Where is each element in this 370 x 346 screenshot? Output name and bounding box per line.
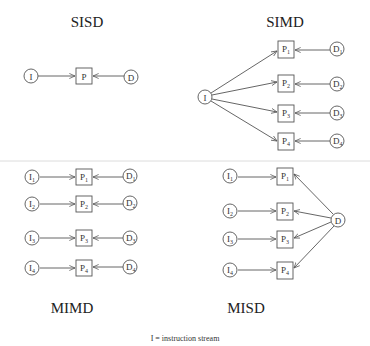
mimd-data-3: D3: [123, 231, 137, 245]
mimd-panel: I1 I2 I3 I4 P1 P2 P3 P4 D1 D2 D3 D4 MIMD: [25, 169, 137, 316]
simd-processor-3: P3: [278, 105, 294, 122]
simd-edge-i-p3: [212, 99, 277, 112]
simd-data-4: D4: [330, 134, 344, 148]
misd-instruction-2: I2: [223, 204, 237, 218]
legend-text: I = instruction stream: [151, 334, 220, 343]
misd-instruction-3: I3: [223, 232, 237, 246]
mimd-instruction-2: I2: [25, 197, 39, 211]
svg-text:D: D: [128, 73, 135, 83]
flynn-taxonomy-diagram: SISD I P D SIMD I P1: [0, 0, 370, 346]
simd-edge-i-p1: [211, 51, 277, 93]
simd-edge-i-p4: [211, 101, 277, 141]
simd-processor-2: P2: [278, 75, 294, 92]
mimd-processor-2: P2: [76, 196, 92, 212]
misd-processor-4: P4: [277, 262, 293, 279]
misd-data-node: D: [331, 213, 345, 227]
simd-data-3: D3: [330, 106, 344, 120]
sisd-processor-node: P: [76, 68, 92, 84]
mimd-data-4: D4: [123, 260, 137, 274]
mimd-data-2: D2: [123, 196, 137, 210]
simd-processor-4: P4: [278, 133, 294, 150]
misd-title: MISD: [227, 300, 265, 316]
svg-text:D: D: [335, 216, 342, 226]
simd-data-2: D2: [330, 77, 344, 91]
mimd-processor-4: P4: [76, 260, 92, 276]
misd-edge-d-p1: [294, 174, 333, 214]
simd-title: SIMD: [266, 14, 304, 30]
mimd-processor-1: P1: [76, 169, 92, 185]
misd-edge-d-p2: [294, 211, 331, 218]
mimd-processor-3: P3: [76, 230, 92, 246]
sisd-data-node: D: [124, 70, 138, 84]
misd-processor-1: P1: [277, 168, 293, 185]
svg-text:I: I: [204, 93, 207, 103]
sisd-title: SISD: [71, 14, 104, 30]
sisd-instruction-node: I: [24, 69, 38, 83]
sisd-panel: SISD I P D: [24, 14, 138, 84]
simd-processor-1: P1: [278, 41, 294, 58]
simd-edge-i-p2: [212, 82, 277, 95]
simd-data-1: D1: [330, 42, 344, 56]
mimd-instruction-3: I3: [25, 231, 39, 245]
mimd-title: MIMD: [51, 300, 94, 316]
simd-instruction-node: I: [198, 90, 212, 104]
misd-instruction-4: I4: [223, 263, 237, 277]
misd-processor-3: P3: [277, 231, 293, 248]
svg-text:P: P: [81, 72, 86, 82]
mimd-instruction-1: I1: [25, 170, 39, 184]
misd-instruction-1: I1: [223, 169, 237, 183]
misd-processor-2: P2: [277, 203, 293, 220]
mimd-data-1: D1: [123, 169, 137, 183]
simd-panel: SIMD I P1 P2 P3 P4 D1: [198, 14, 344, 150]
misd-edge-d-p4: [294, 226, 334, 268]
svg-text:I: I: [30, 72, 33, 82]
mimd-instruction-4: I4: [25, 261, 39, 275]
misd-panel: I1 I2 I3 I4 P1 P2 P3 P4 D MISD: [223, 168, 345, 316]
